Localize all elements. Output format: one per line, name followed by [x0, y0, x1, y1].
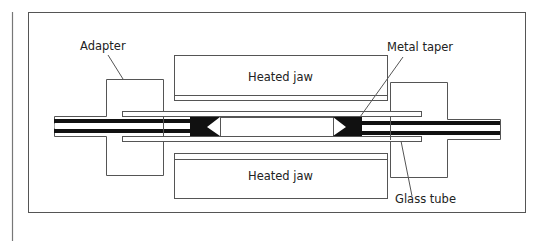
adapter-leader — [108, 55, 123, 79]
label-glass-tube: Glass tube — [395, 192, 456, 206]
fiber-splicer-diagram: Adapter Metal taper Heated jaw Heated ja… — [0, 0, 540, 241]
metal-taper-left — [190, 117, 220, 136]
adapter-right — [391, 83, 501, 178]
fiber-left — [54, 119, 191, 133]
label-metal-taper: Metal taper — [387, 40, 453, 54]
splice-cavity — [221, 118, 334, 137]
label-adapter: Adapter — [80, 39, 126, 53]
label-heated-jaw-top: Heated jaw — [248, 70, 313, 84]
metal-taper-right — [333, 117, 362, 136]
label-heated-jaw-bottom: Heated jaw — [248, 169, 313, 183]
